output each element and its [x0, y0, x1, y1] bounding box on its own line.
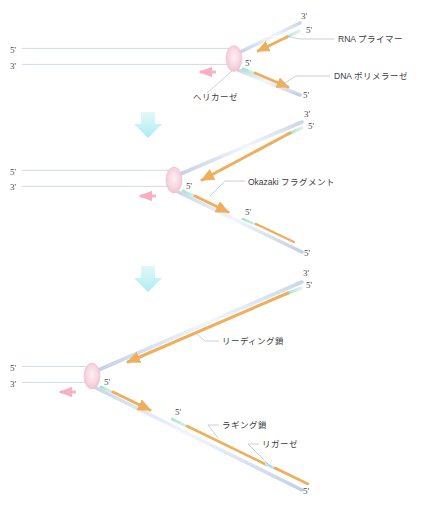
rna-primer-label: RNA プライマー — [338, 34, 403, 44]
lagging-strand-label: ラギング鎖 — [222, 420, 267, 430]
panel-1: 5' 3' 5' 3' 5' 5' RNA プライマー DNA ポリメラーゼ ヘ… — [10, 11, 408, 102]
dna-polymerase-leader-line — [283, 76, 330, 84]
upper-template-arm — [178, 122, 302, 175]
leading-strand-label: リーディング鎖 — [222, 336, 284, 346]
upper-template-arm — [238, 23, 300, 53]
dna-polymerase-label: DNA ポリメラーゼ — [334, 71, 408, 81]
helicase-leader-line — [207, 71, 232, 93]
helicase-oval — [226, 46, 242, 72]
panel-2: 5' 3' 5' 3' 5' 5' 5' Okazaki フラグメント — [10, 109, 335, 258]
panel-3: 5' 3' 5' 3' 5' 5' 5' リーディング鎖 ラギング鎖 リガーゼ — [10, 268, 313, 496]
end-marker: 5' — [175, 407, 182, 417]
end-marker: 3' — [10, 61, 17, 71]
end-marker: 3' — [301, 11, 308, 21]
end-marker: 5' — [10, 363, 17, 373]
end-marker: 5' — [245, 58, 252, 68]
lagging-okazaki-fragment-1 — [187, 426, 267, 465]
end-marker: 3' — [10, 379, 17, 389]
end-marker: 5' — [304, 248, 311, 258]
end-marker: 3' — [304, 109, 311, 119]
end-marker: 5' — [245, 207, 252, 217]
upper-polymerase-arrow — [202, 133, 290, 180]
helicase-label: ヘリカーゼ — [193, 92, 238, 102]
lower-template-arm — [238, 70, 300, 95]
step-arrow-1-to-2 — [134, 112, 162, 138]
end-marker: 5' — [10, 45, 17, 55]
upper-template-arm — [96, 282, 302, 371]
end-marker: 5' — [306, 280, 313, 290]
diagram-canvas: 5' 3' 5' 3' 5' 5' RNA プライマー DNA ポリメラーゼ ヘ… — [0, 0, 436, 515]
helicase-oval — [166, 167, 182, 193]
lower-template-arm — [178, 192, 302, 252]
ligase-label: リガーゼ — [262, 439, 298, 449]
dna-replication-figure: 5' 3' 5' 3' 5' 5' RNA プライマー DNA ポリメラーゼ ヘ… — [0, 0, 436, 515]
rna-primer-leader-line — [286, 36, 334, 39]
end-marker: 3' — [303, 268, 310, 278]
end-marker: 5' — [104, 377, 111, 387]
helicase-oval — [84, 363, 100, 389]
end-marker: 5' — [306, 25, 313, 35]
step-arrow-2-to-3 — [134, 266, 162, 292]
leading-strand-dna — [128, 293, 288, 362]
lagging-okazaki-fragment-2 — [275, 468, 308, 484]
okazaki-fragment-leader-line — [210, 181, 245, 196]
okazaki-fragment-label: Okazaki フラグメント — [248, 177, 335, 187]
end-marker: 5' — [308, 121, 315, 131]
end-marker: 5' — [186, 181, 193, 191]
end-marker: 5' — [303, 486, 310, 496]
end-marker: 3' — [10, 182, 17, 192]
end-marker: 5' — [303, 90, 310, 100]
leading-strand-leader-line — [197, 334, 219, 341]
end-marker: 5' — [10, 167, 17, 177]
upper-polymerase-arrow — [258, 37, 287, 51]
